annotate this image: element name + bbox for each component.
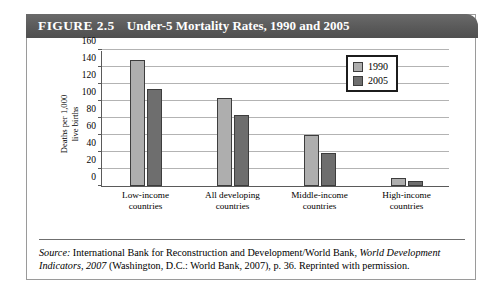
- y-axis-title-line-1: Deaths per 1,000: [59, 74, 70, 174]
- x-axis-category-label: Low-incomecountries: [102, 190, 189, 212]
- y-axis-tick-label: 60: [87, 121, 97, 131]
- y-axis-tick: [98, 49, 102, 50]
- chart-region: Deaths per 1,000 live births 02040608010…: [27, 39, 477, 231]
- plot-wrapper: 020406080100120140160 Low-incomecountrie…: [101, 51, 449, 187]
- source-note: Source: International Bank for Reconstru…: [39, 246, 459, 273]
- y-axis-tick-label: 120: [82, 70, 96, 80]
- legend-item-2005: 2005: [353, 75, 388, 86]
- x-axis-category-label: All developingcountries: [189, 190, 276, 212]
- bar-2005-0: [147, 89, 162, 186]
- legend-item-1990: 1990: [353, 61, 388, 72]
- source-text-part1: International Bank for Reconstruction an…: [70, 247, 359, 258]
- figure-card: FIGURE 2.5 Under-5 Mortality Rates, 1990…: [26, 14, 476, 280]
- x-axis-category-line: High-income: [363, 190, 450, 201]
- x-axis-category-line: countries: [102, 201, 189, 212]
- bar-1990-1: [217, 98, 232, 186]
- figure-title: Under-5 Mortality Rates, 1990 and 2005: [127, 18, 350, 34]
- x-axis-category-line: countries: [189, 201, 276, 212]
- y-axis-title-line-2: live births: [70, 74, 81, 174]
- y-axis-tick-label: 80: [87, 104, 97, 114]
- x-axis-category-line: Low-income: [102, 190, 189, 201]
- bar-1990-0: [130, 60, 145, 186]
- x-axis-category-line: countries: [363, 201, 450, 212]
- legend-label-1990: 1990: [368, 61, 388, 72]
- legend-swatch-2005-icon: [353, 76, 363, 86]
- y-axis-tick-label: 100: [82, 87, 96, 97]
- gridline: [102, 49, 449, 50]
- figure-number: FIGURE 2.5: [38, 18, 115, 34]
- x-axis-category-label: Middle-incomecountries: [276, 190, 363, 212]
- legend-label-2005: 2005: [368, 75, 388, 86]
- bar-2005-2: [321, 153, 336, 186]
- bar-group: Low-incomecountries: [102, 51, 189, 186]
- legend-swatch-1990-icon: [353, 62, 363, 72]
- x-axis-category-line: Middle-income: [276, 190, 363, 201]
- x-axis-category-label: High-incomecountries: [363, 190, 450, 212]
- y-axis-tick-label: 140: [82, 53, 96, 63]
- chart-legend: 1990 2005: [346, 55, 398, 92]
- bar-1990-3: [391, 178, 406, 187]
- source-text-part2: (Washington, D.C.: World Bank, 2007), p.…: [106, 260, 409, 271]
- bar-1990-2: [304, 135, 319, 186]
- bar-2005-1: [234, 115, 249, 186]
- bar-group: All developingcountries: [189, 51, 276, 186]
- y-axis-tick-label: 40: [87, 138, 97, 148]
- figure-title-banner: FIGURE 2.5 Under-5 Mortality Rates, 1990…: [26, 14, 478, 38]
- x-axis-category-line: All developing: [189, 190, 276, 201]
- source-divider: [39, 239, 465, 240]
- bar-2005-3: [408, 181, 423, 186]
- x-axis-category-line: countries: [276, 201, 363, 212]
- y-axis-tick-label: 0: [91, 172, 96, 182]
- y-axis-tick-label: 20: [87, 155, 97, 165]
- y-axis-tick-label: 160: [82, 36, 96, 46]
- source-label: Source:: [39, 247, 70, 258]
